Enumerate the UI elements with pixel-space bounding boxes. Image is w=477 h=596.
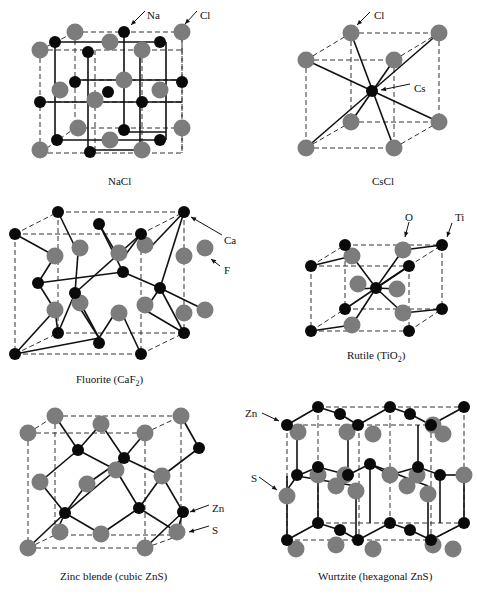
cation-atom [59,507,71,519]
arrowhead-icon [190,508,195,512]
anion-atom [111,245,128,262]
panel-caption: Rutile (TiO2) [347,349,406,364]
panel-wurtzite: ZnSWurtzite (hexagonal ZnS) [245,401,473,583]
anion-atom [328,478,345,495]
pointer-arrow [191,217,222,235]
cation-atom [154,36,166,48]
anion-atom [67,24,84,41]
cation-atom [135,228,147,240]
atom-label: Ca [224,234,236,246]
cation-atom [135,348,147,360]
anion-atom [79,476,96,493]
cation-atom [366,85,378,97]
cation-atom [404,524,416,536]
cation-atom [82,46,94,58]
cation-atom [458,401,470,413]
anion-atom [174,24,191,41]
anion-atom [431,114,448,131]
cation-atom [339,303,351,315]
cation-atom [458,517,470,529]
panel-fluorite: CaFFluorite (CaF2) [9,206,236,388]
cation-atom [291,469,303,481]
anion-atom [328,537,345,554]
anion-atom [431,25,448,42]
atom-label: Zn [212,502,225,514]
cation-atom [118,124,130,136]
cation-atom [403,325,415,337]
anion-atom [87,92,104,109]
anion-atom [20,425,37,442]
anion-atom [52,82,69,99]
anion-atom [47,302,64,319]
anion-atom [102,132,119,149]
atom-label: Na [147,9,160,21]
anion-atom [445,541,462,558]
anion-atom [279,488,296,505]
cation-atom [436,303,448,315]
crystal-structures-figure: NaClNaClClCsCsClCaFFluorite (CaF2)OTiRut… [0,0,477,596]
anion-atom [298,140,315,157]
cation-atom [51,134,63,146]
atom-label: Ti [455,211,464,223]
atom-label: F [224,264,230,276]
anion-atom [395,305,412,322]
cation-atom [176,76,188,88]
anion-atom [173,408,190,425]
anion-atom [169,524,186,541]
anion-atom [389,281,406,298]
cation-atom [93,218,105,230]
cation-atom [154,134,166,146]
cation-atom [434,469,446,481]
anion-atom [93,526,110,543]
cation-atom [312,461,324,473]
atoms [305,239,448,337]
anion-atom [176,248,193,265]
atoms [20,408,206,557]
cation-atom [334,524,346,536]
cation-atom [334,408,346,420]
anion-atom [348,483,365,500]
cation-atom [52,327,64,339]
cation-atom [370,282,382,294]
cation-atom [69,76,81,88]
anion-atom [52,524,69,541]
cation-atom [412,461,424,473]
atoms [9,206,214,360]
anion-atom [435,426,452,443]
arrowhead-icon [272,485,277,490]
anion-atom [174,120,191,137]
cation-atom [352,419,364,431]
cation-atom [49,36,61,48]
cation-atom [364,458,376,470]
cation-atom [425,534,437,546]
anion-atom [344,317,361,334]
cation-atom [352,534,364,546]
cation-atom [312,401,324,413]
cation-atom [9,348,21,360]
cation-atom [281,419,293,431]
atom-label: S [251,472,257,484]
atom-label: S [212,524,218,536]
panel-caption: Fluorite (CaF2) [76,373,144,388]
cation-atom [404,408,416,420]
atom-label: Cl [200,9,210,21]
anion-atom [32,142,49,159]
anion-atom [365,541,382,558]
anion-atom [298,52,315,69]
anion-atom [343,114,360,131]
cation-atom [72,444,84,456]
anion-atom [399,478,416,495]
cation-atom [403,260,415,272]
anion-atom [382,467,399,484]
cation-atom [339,239,351,251]
anion-atom [395,242,412,259]
anion-atom [32,42,49,59]
cation-atom [136,96,148,108]
atom-label: Cs [414,82,426,94]
anion-atom [70,120,87,137]
anion-atom [386,140,403,157]
anion-atom [197,240,214,257]
cation-atom [384,401,396,413]
cation-atom [312,517,324,529]
anion-atom [386,52,403,69]
